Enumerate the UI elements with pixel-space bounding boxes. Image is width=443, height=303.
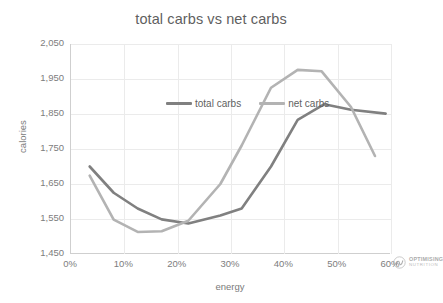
y-axis-tick-label: 1,550 [18,212,64,223]
x-axis-tick-label: 30% [210,258,250,269]
x-axis-tick-label: 40% [263,258,303,269]
x-axis-tick-label: 10% [103,258,143,269]
y-axis-tick-labels: 1,4501,5501,6501,7501,8501,9502,050 [16,44,64,254]
legend-entry[interactable]: total carbs [166,98,241,109]
x-axis-tick-label: 20% [157,258,197,269]
y-axis-tick-label: 1,450 [18,247,64,258]
legend-label: total carbs [195,98,241,109]
series-line [90,70,375,232]
legend-entry[interactable]: net carbs [259,98,329,109]
y-axis-tick-label: 1,650 [18,177,64,188]
series-lines [71,44,391,254]
y-axis-tick-label: 1,950 [18,72,64,83]
watermark-sub: NUTRITION [409,263,443,268]
y-axis-tick-label: 2,050 [18,37,64,48]
chart-legend: total carbsnet carbs [166,96,329,110]
x-axis-title: energy [70,281,390,292]
legend-label: net carbs [288,98,329,109]
plot-area: total carbsnet carbs OPTIMISING NUTRITIO… [70,44,390,254]
x-axis-tick-label: 50% [317,258,357,269]
x-axis-tick-labels: 0%10%20%30%40%50%60% [70,258,390,274]
y-axis-tick-label: 1,750 [18,142,64,153]
x-axis-tick-label: 0% [50,258,90,269]
y-axis-tick-label: 1,850 [18,107,64,118]
legend-swatch [259,102,285,105]
series-line [90,104,386,223]
x-axis-tick-label: 60% [370,258,410,269]
chart-title: total carbs vs net carbs [0,11,422,27]
gridline-vertical [391,44,392,254]
legend-swatch [166,102,192,105]
